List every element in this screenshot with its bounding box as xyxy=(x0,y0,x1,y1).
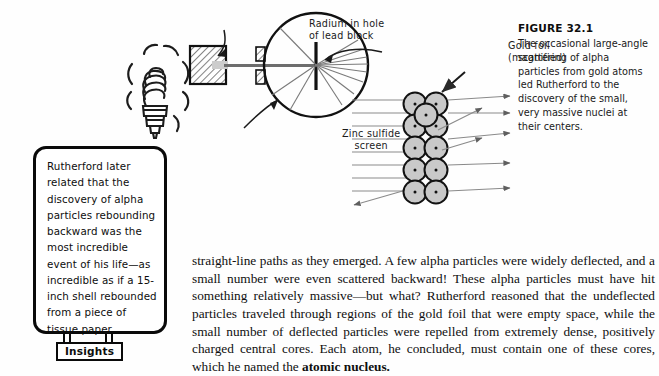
insights-callout-box: Rutherford later related that the discov… xyxy=(33,146,167,334)
textbook-page: FIGURE 32.1 The occasional large-angle s… xyxy=(0,0,659,376)
figure-number: FIGURE 32.1 xyxy=(518,22,650,34)
label-radium: Radium in hole of lead block xyxy=(309,18,384,42)
body-paragraph: straight-line paths as they emerged. A f… xyxy=(192,252,655,376)
atomic-nucleus-term: atomic nucleus. xyxy=(302,359,390,374)
label-gold-foil: Gold foil (magnified) xyxy=(508,40,566,64)
light-bulb-icon xyxy=(126,40,200,148)
insights-quote: Rutherford later related that the discov… xyxy=(47,158,159,337)
insights-tab-label: Insights xyxy=(56,342,123,361)
figure-caption: FIGURE 32.1 The occasional large-angle s… xyxy=(518,22,650,133)
label-zinc-sulfide: Zinc sulfide screen xyxy=(342,128,400,152)
body-paragraph-lead: straight-line paths as they emerged. A f… xyxy=(192,253,655,374)
